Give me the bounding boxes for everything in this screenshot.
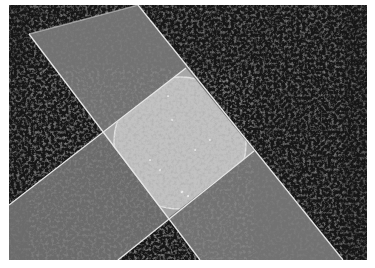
photo-frame: Two clear glass slides laid in a cross o… (0, 0, 375, 268)
photo (0, 0, 375, 268)
